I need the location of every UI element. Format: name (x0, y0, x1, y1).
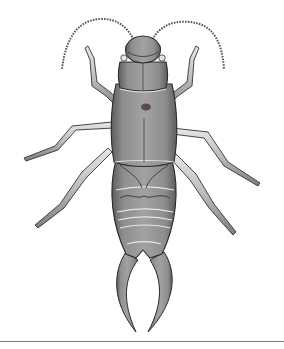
head (126, 36, 161, 63)
left-forceps (117, 252, 138, 332)
left-hind-leg (35, 148, 112, 228)
right-eye (159, 55, 165, 61)
left-eye (121, 55, 127, 61)
right-middle-leg (172, 128, 260, 186)
right-forceps (148, 252, 172, 332)
earwig-illustration (0, 0, 284, 349)
forceps (117, 252, 173, 332)
thorax-spot (141, 104, 151, 111)
horizontal-rule (0, 341, 284, 342)
